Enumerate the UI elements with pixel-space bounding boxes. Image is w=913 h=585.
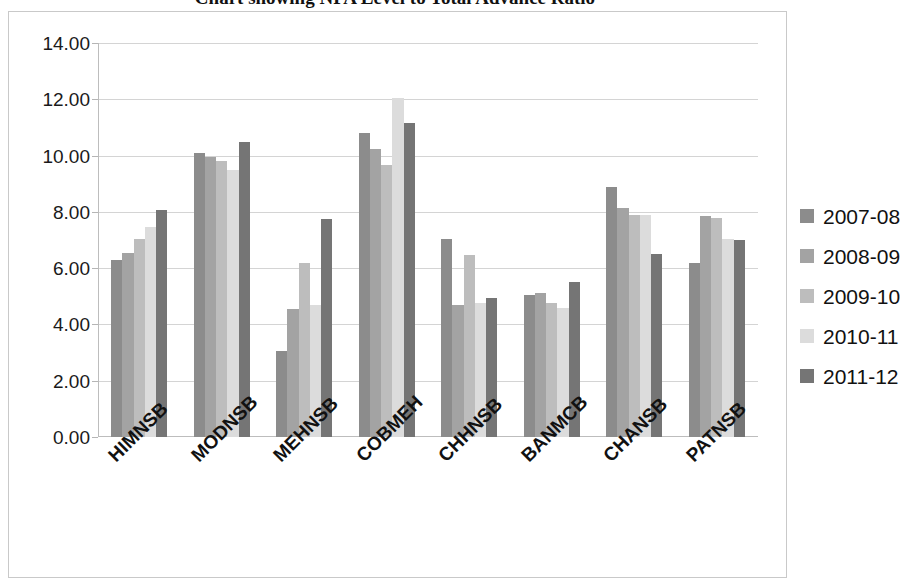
bar[interactable] [216, 161, 227, 437]
bar-groups [98, 43, 758, 437]
x-axis-tick-slot: MEHNSB [263, 437, 346, 567]
bar-slot [557, 43, 568, 437]
legend-item-label: 2009-10 [823, 286, 900, 307]
bar[interactable] [276, 351, 287, 437]
bar[interactable] [134, 239, 145, 437]
bar-slot [546, 43, 557, 437]
legend-swatch-icon [800, 249, 814, 263]
bar[interactable] [370, 149, 381, 437]
bar-slot [239, 43, 250, 437]
chart-legend: 2007-082008-092009-102010-112011-12 [800, 196, 910, 396]
bar[interactable] [122, 253, 133, 437]
y-axis-tick-mark [92, 268, 98, 269]
bar-slot [156, 43, 167, 437]
bar-group [98, 43, 181, 437]
bar-group [181, 43, 264, 437]
bar[interactable] [194, 153, 205, 437]
bar-slot [370, 43, 381, 437]
bar[interactable] [700, 216, 711, 437]
bar[interactable] [689, 263, 700, 437]
bar-group [593, 43, 676, 437]
bar-slot [310, 43, 321, 437]
y-axis-tick-label: 0.00 [53, 428, 90, 447]
x-axis-tick-slot: PATNSB [676, 437, 759, 567]
bar-slot [734, 43, 745, 437]
bar-slot [464, 43, 475, 437]
y-axis-tick-label: 8.00 [53, 202, 90, 221]
y-axis-tick-mark [92, 156, 98, 157]
bar[interactable] [381, 165, 392, 437]
legend-item[interactable]: 2007-08 [800, 196, 910, 236]
y-axis-tick-label: 2.00 [53, 371, 90, 390]
bar-slot [606, 43, 617, 437]
bar[interactable] [441, 239, 452, 437]
legend-item[interactable]: 2009-10 [800, 276, 910, 316]
bar[interactable] [359, 133, 370, 437]
bar-slot [617, 43, 628, 437]
bar-slot [404, 43, 415, 437]
bar-slot [651, 43, 662, 437]
legend-item-label: 2011-12 [823, 366, 899, 387]
bar-slot [194, 43, 205, 437]
bar-slot [441, 43, 452, 437]
legend-item[interactable]: 2011-12 [800, 356, 910, 396]
legend-item[interactable]: 2010-11 [800, 316, 910, 356]
bar[interactable] [535, 293, 546, 437]
bar[interactable] [452, 305, 463, 437]
bar[interactable] [205, 157, 216, 437]
bar-slot [700, 43, 711, 437]
bar-slot [216, 43, 227, 437]
legend-item-label: 2007-08 [823, 206, 900, 227]
x-axis-tick-slot: CHANSB [593, 437, 676, 567]
y-axis-tick-mark [92, 99, 98, 100]
x-axis-tick-slot: COBMEH [346, 437, 429, 567]
bar-slot [452, 43, 463, 437]
bar-slot [381, 43, 392, 437]
bar[interactable] [287, 309, 298, 437]
x-axis-tick-slot: MODNSB [181, 437, 264, 567]
legend-item-label: 2008-09 [823, 246, 900, 267]
bar-slot [722, 43, 733, 437]
plot-area [98, 43, 758, 437]
bar[interactable] [404, 123, 415, 437]
bar-group [428, 43, 511, 437]
bar[interactable] [524, 295, 535, 437]
y-axis-tick-mark [92, 381, 98, 382]
bar[interactable] [606, 187, 617, 437]
bar-slot [524, 43, 535, 437]
bar[interactable] [617, 208, 628, 437]
bar-slot [205, 43, 216, 437]
legend-swatch-icon [800, 369, 814, 383]
bar-group [346, 43, 429, 437]
y-axis-tick-label: 12.00 [42, 90, 90, 109]
bar-slot [359, 43, 370, 437]
bar-group [676, 43, 759, 437]
bar[interactable] [464, 255, 475, 437]
y-axis-tick-label: 14.00 [42, 34, 90, 53]
bar-slot [475, 43, 486, 437]
bar[interactable] [711, 218, 722, 438]
y-axis-tick-label: 4.00 [53, 315, 90, 334]
y-axis-tick-mark [92, 43, 98, 44]
legend-item-label: 2010-11 [823, 326, 899, 347]
y-axis: 14.0012.0010.008.006.004.002.000.00 [0, 43, 90, 437]
y-axis-tick-mark [92, 212, 98, 213]
x-axis-tick-slot: CHHNSB [428, 437, 511, 567]
bar[interactable] [227, 170, 238, 437]
legend-swatch-icon [800, 209, 814, 223]
chart-title: Chart showing NPA Level to Total Advance… [0, 0, 790, 8]
bar-slot [392, 43, 403, 437]
bar-slot [227, 43, 238, 437]
legend-item[interactable]: 2008-09 [800, 236, 910, 276]
bar-slot [569, 43, 580, 437]
bar-chart-figure: Chart showing NPA Level to Total Advance… [0, 0, 913, 585]
bar[interactable] [629, 215, 640, 437]
x-axis-tick-slot: BANMCB [511, 437, 594, 567]
x-axis: HIMNSBMODNSBMEHNSBCOBMEHCHHNSBBANMCBCHAN… [98, 437, 758, 567]
bar[interactable] [111, 260, 122, 437]
x-axis-tick-slot: HIMNSB [98, 437, 181, 567]
bar-slot [321, 43, 332, 437]
legend-swatch-icon [800, 329, 814, 343]
bar[interactable] [392, 98, 403, 437]
bar-slot [711, 43, 722, 437]
